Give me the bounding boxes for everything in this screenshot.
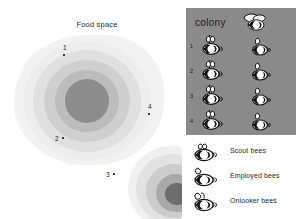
scout-bee-icon (197, 84, 227, 108)
colony-row: 4 (186, 109, 296, 134)
legend-item: Employed bees (188, 165, 301, 190)
onlooker-bee-icon (247, 36, 275, 58)
legend-item: Scout bees (188, 140, 301, 165)
colony-row-number: 4 (190, 118, 193, 124)
food-source-marker-2: 2 (55, 136, 59, 143)
scout-bee-icon (197, 109, 227, 133)
onlooker-bee-icon (247, 86, 275, 108)
onlooker-bee-icon (247, 111, 275, 133)
colony-row-number: 3 (190, 93, 193, 99)
onlooker-bee-icon (188, 190, 224, 214)
legend-label: Scout bees (230, 147, 266, 154)
food-source-marker-4: 4 (148, 104, 152, 111)
food-source-dot-1 (63, 54, 65, 56)
diagram-canvas: Food space 1 2 3 4 colony (0, 0, 301, 219)
scout-bee-icon (197, 34, 227, 58)
colony-panel: colony 1 (186, 8, 296, 135)
food-source-dot-4 (148, 113, 150, 115)
food-space-title: Food space (52, 20, 142, 29)
food-source-dot-3 (113, 173, 115, 175)
scout-bee-icon (197, 59, 227, 83)
colony-row: 2 (186, 59, 296, 84)
legend-item: Onlooker bees (188, 190, 301, 215)
colony-row-number: 2 (190, 68, 193, 74)
legend-label: Onlooker bees (230, 197, 277, 204)
colony-row-number: 1 (190, 43, 193, 49)
colony-row: 1 (186, 34, 296, 59)
food-source-marker-3: 3 (106, 172, 110, 179)
colony-title: colony (195, 17, 226, 28)
employed-bee-icon (188, 165, 224, 189)
colony-bee-grid: 1 (186, 34, 296, 135)
colony-row: 3 (186, 84, 296, 109)
legend: Scout bees Employed bees (188, 140, 301, 218)
food-space-panel: Food space 1 2 3 4 (0, 0, 182, 219)
secondary-ring-core (165, 183, 182, 205)
food-source-dot-2 (62, 137, 64, 139)
legend-label: Employed bees (230, 172, 280, 179)
food-space-secondary (128, 142, 182, 219)
food-source-marker-1: 1 (63, 45, 67, 52)
onlooker-bee-icon (247, 61, 275, 83)
food-space-ring-core (65, 79, 109, 123)
scout-bee-icon (188, 140, 224, 164)
flying-bee-icon (242, 12, 268, 32)
